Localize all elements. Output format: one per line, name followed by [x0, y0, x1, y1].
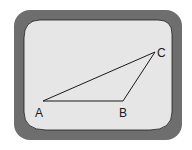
vertex-label-a: A: [35, 106, 43, 120]
diagram-canvas: A B C: [0, 0, 192, 150]
vertex-label-c: C: [157, 46, 166, 60]
vertex-label-b: B: [119, 106, 127, 120]
monitor-screen: [24, 20, 172, 130]
